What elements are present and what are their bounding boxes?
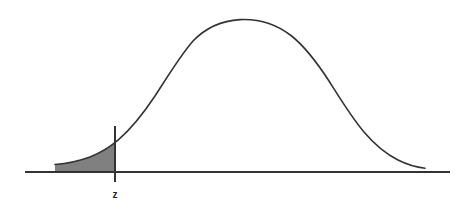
- left-tail-shaded-area: [55, 143, 115, 171]
- bell-curve-path: [55, 20, 425, 169]
- distribution-chart-canvas: z: [0, 0, 476, 212]
- normal-distribution-figure: z: [0, 0, 476, 212]
- z-axis-label: z: [113, 189, 118, 200]
